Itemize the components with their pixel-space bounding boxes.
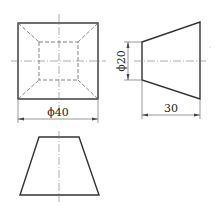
dimension-label-diameter-40: ϕ40 xyxy=(47,106,69,119)
side-view: ϕ20 30 xyxy=(115,22,211,119)
truncated-cone-side xyxy=(142,22,200,99)
trapezoid-outline xyxy=(20,137,99,195)
front-view: ϕ40 xyxy=(11,14,106,123)
dimension-label-30: 30 xyxy=(164,102,178,115)
technical-drawing: ϕ40 ϕ20 30 xyxy=(0,0,220,208)
dimension-label-diameter-20: ϕ20 xyxy=(115,50,128,72)
top-view xyxy=(20,131,99,202)
